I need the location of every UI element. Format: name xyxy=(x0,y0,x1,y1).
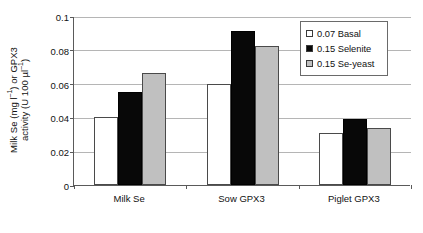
y-tick-mark xyxy=(70,84,74,85)
y-tick-label: 0.04 xyxy=(35,113,69,124)
x-tick-label: Milk Se xyxy=(114,193,145,204)
legend-swatch xyxy=(306,60,313,67)
x-tick-label: Piglet GPX3 xyxy=(328,193,380,204)
legend-item: 0.07 Basal xyxy=(306,26,383,41)
y-tick-mark xyxy=(70,152,74,153)
y-tick-mark xyxy=(70,50,74,51)
legend-swatch xyxy=(306,30,313,37)
y-tick-mark xyxy=(70,17,74,18)
bar xyxy=(255,46,279,185)
legend-label: 0.07 Basal xyxy=(317,29,361,39)
x-tick-mark xyxy=(411,185,412,189)
y-tick-mark xyxy=(70,118,74,119)
y-axis-tick-labels: 00.020.040.060.080.1 xyxy=(33,0,69,233)
bar-chart-figure: Milk Se (mg l–1) or GPX3 activity (U 100… xyxy=(0,0,423,233)
bar xyxy=(343,119,367,185)
legend-item: 0.15 Se-yeast xyxy=(306,56,383,71)
bar-group xyxy=(94,17,166,185)
bar xyxy=(142,73,166,185)
x-tick-mark xyxy=(299,185,300,189)
legend-label: 0.15 Se-yeast xyxy=(317,59,374,69)
bar xyxy=(118,92,142,185)
bar xyxy=(319,133,343,185)
legend-label: 0.15 Selenite xyxy=(317,44,371,54)
x-tick-mark xyxy=(186,185,187,189)
y-axis-title-line2: activity (U 100 µl–1) xyxy=(19,59,30,141)
bar xyxy=(367,128,391,185)
legend-swatch xyxy=(306,45,313,52)
y-tick-label: 0 xyxy=(35,181,69,192)
bar xyxy=(231,31,255,185)
bar xyxy=(94,117,118,185)
x-tick-label: Sow GPX3 xyxy=(218,193,264,204)
chart-legend: 0.07 Basal0.15 Selenite0.15 Se-yeast xyxy=(300,21,388,76)
y-tick-label: 0.08 xyxy=(35,45,69,56)
x-tick-mark xyxy=(74,185,75,189)
legend-item: 0.15 Selenite xyxy=(306,41,383,56)
y-tick-label: 0.1 xyxy=(35,12,69,23)
bar xyxy=(207,84,231,185)
y-tick-label: 0.02 xyxy=(35,147,69,158)
bar-group xyxy=(207,17,279,185)
y-tick-label: 0.06 xyxy=(35,79,69,90)
